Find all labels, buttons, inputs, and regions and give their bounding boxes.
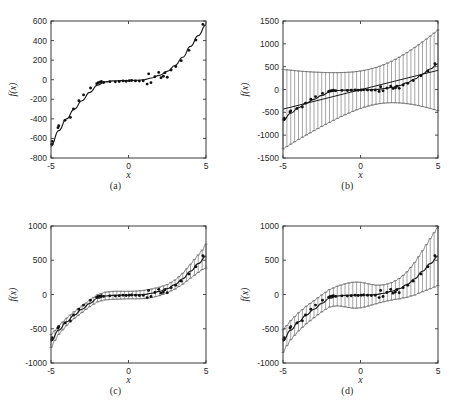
y-tick-label: 1000: [28, 221, 47, 231]
error-bars: [281, 227, 439, 353]
data-points: [50, 254, 204, 341]
y-tick-label: 200: [33, 55, 47, 65]
panel-a-plot: -800-600-400-2000200400600-505xf(x): [0, 0, 231, 205]
y-axis-label: f(x): [239, 82, 251, 97]
x-axis-label: x: [357, 169, 363, 180]
y-tick-label: -1000: [257, 130, 279, 140]
y-tick-label: -500: [30, 324, 47, 334]
y-tick-label: 500: [265, 62, 279, 72]
x-tick-label: 5: [436, 366, 441, 376]
panel-a-caption: (a): [0, 180, 231, 191]
y-tick-label: 1000: [260, 221, 279, 231]
panel-c-axes: -1000-50005001000-505xf(x): [7, 221, 209, 385]
y-tick-label: 500: [33, 255, 47, 265]
y-tick-label: 1000: [260, 39, 279, 49]
y-tick-label: 500: [265, 255, 279, 265]
y-tick-label: -600: [30, 133, 47, 143]
panel-c-caption: (c): [0, 385, 231, 396]
x-axis-label: x: [125, 374, 131, 385]
y-tick-label: 0: [274, 85, 279, 95]
y-tick-label: 0: [42, 290, 47, 300]
x-axis-label: x: [125, 169, 131, 180]
y-tick-label: -1000: [257, 358, 279, 368]
panel-d-plot: -1000-50005001000-505xf(x): [232, 205, 463, 410]
x-tick-label: -5: [47, 366, 55, 376]
panel-b-svg: -1500-1000-500050010001500-505xf(x): [232, 0, 463, 205]
panel-a-axes: -800-600-400-2000200400600-505xf(x): [7, 16, 209, 180]
x-axis-label: x: [357, 374, 363, 385]
fit-curve: [51, 25, 206, 146]
panel-b-axes: -1500-1000-500050010001500-505xf(x): [239, 16, 441, 180]
y-axis-label: f(x): [239, 287, 251, 302]
y-tick-label: 400: [33, 36, 47, 46]
y-axis-label: f(x): [7, 82, 19, 97]
data-points: [282, 254, 436, 341]
panel-d-caption: (d): [232, 385, 463, 396]
panel-c-svg: -1000-50005001000-505xf(x): [0, 205, 231, 410]
x-tick-label: -5: [279, 366, 287, 376]
panel-d-axes: -1000-50005001000-505xf(x): [239, 221, 441, 385]
y-tick-label: 0: [42, 75, 47, 85]
y-tick-label: -1500: [257, 153, 279, 163]
y-axis-label: f(x): [7, 287, 19, 302]
x-tick-label: 5: [204, 161, 209, 171]
y-tick-label: -1000: [25, 358, 47, 368]
panel-b-caption: (b): [232, 180, 463, 191]
x-tick-label: -5: [47, 161, 55, 171]
panel-d-svg: -1000-50005001000-505xf(x): [232, 205, 463, 410]
y-tick-label: 0: [274, 290, 279, 300]
plot-frame: [51, 21, 206, 158]
x-tick-label: 5: [436, 161, 441, 171]
x-tick-label: 5: [204, 366, 209, 376]
panel-a-svg: -800-600-400-2000200400600-505xf(x): [0, 0, 231, 205]
y-tick-label: -500: [262, 324, 279, 334]
y-tick-label: -800: [30, 153, 47, 163]
panel-b-plot: -1500-1000-500050010001500-505xf(x): [232, 0, 463, 205]
y-tick-label: 1500: [260, 16, 279, 26]
y-tick-label: 600: [33, 16, 47, 26]
figure-four-panel-regression: -800-600-400-2000200400600-505xf(x) (a) …: [0, 0, 463, 410]
y-tick-label: -500: [262, 107, 279, 117]
y-tick-label: -400: [30, 114, 47, 124]
x-tick-label: -5: [279, 161, 287, 171]
y-tick-label: -200: [30, 94, 47, 104]
panel-c-plot: -1000-50005001000-505xf(x): [0, 205, 231, 410]
data-points: [50, 23, 204, 146]
